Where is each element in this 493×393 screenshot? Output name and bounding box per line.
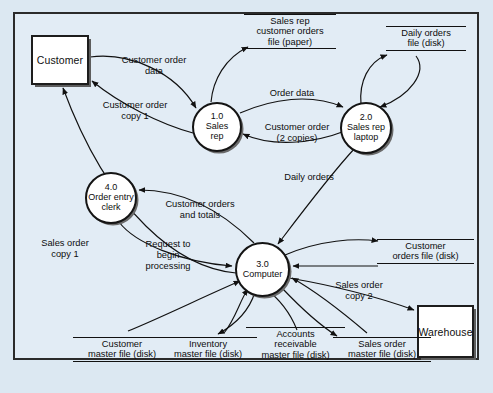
flow-label-customer-order-copy1-line2: copy 1 bbox=[91, 111, 179, 122]
external-entity-customer-label: Customer bbox=[37, 54, 83, 66]
process-4-line2: clerk bbox=[101, 203, 120, 213]
flow-label-sales-order-copy2: Sales order copy 2 bbox=[324, 280, 394, 302]
flow-label-customer-order-copy1: Customer order copy 1 bbox=[91, 100, 179, 122]
flow-label-sales-order-copy1-line2: copy 1 bbox=[30, 249, 100, 260]
flow-label-customer-order-2copies-line2: (2 copies) bbox=[253, 133, 341, 144]
data-store-customer-master-file-line2: master file (disk) bbox=[73, 349, 171, 359]
data-store-customer-orders-file-line1: Customer bbox=[377, 241, 474, 251]
data-store-daily-orders-line1: Daily orders bbox=[386, 28, 466, 38]
flow-label-sales-order-copy2-line1: Sales order bbox=[324, 280, 394, 291]
process-4-order-entry-clerk[interactable]: 4.0 Order entry clerk bbox=[85, 172, 137, 224]
data-store-customer-master-file-line1: Customer bbox=[73, 339, 171, 349]
data-store-inventory-master-file[interactable]: Inventory master file (disk) bbox=[159, 337, 257, 362]
data-store-ar-master-file-line2: receivable bbox=[246, 339, 345, 349]
data-store-accounts-receivable-master-file[interactable]: Accounts receivable master file (disk) bbox=[246, 327, 345, 362]
data-store-customer-orders-file[interactable]: Customer orders file (disk) bbox=[377, 239, 474, 264]
flow-label-request-to-begin-processing: Request to begin processing bbox=[133, 239, 203, 272]
data-store-ar-master-file-line3: master file (disk) bbox=[246, 350, 345, 360]
data-store-sales-rep-paper-line3: file (paper) bbox=[244, 37, 336, 47]
external-entity-customer[interactable]: Customer bbox=[31, 35, 89, 85]
flow-label-customer-orders-and-totals: Customer orders and totals bbox=[152, 199, 248, 221]
flow-label-customer-order-data: Customer order data bbox=[110, 55, 198, 77]
flow-label-sales-order-copy1: Sales order copy 1 bbox=[30, 238, 100, 260]
flow-to-customer-orders-file bbox=[285, 240, 378, 255]
flow-label-customer-order-copy1-line1: Customer order bbox=[91, 100, 179, 111]
process-2-sales-rep-laptop[interactable]: 2.0 Sales rep laptop bbox=[340, 102, 392, 154]
flow-label-order-data-line1: Order data bbox=[261, 88, 323, 99]
data-store-daily-orders[interactable]: Daily orders file (disk) bbox=[386, 26, 466, 51]
external-entity-warehouse-label: Warehouse bbox=[418, 326, 472, 338]
flow-label-request-line1: Request to bbox=[133, 239, 203, 250]
dfd-figure: the DFD portrays the logical activities … bbox=[0, 0, 493, 393]
data-store-sales-order-master-file-line1: Sales order bbox=[333, 339, 431, 349]
flow-label-daily-orders: Daily orders bbox=[276, 172, 342, 183]
data-store-daily-orders-line2: file (disk) bbox=[386, 38, 466, 48]
flow-label-request-line2: begin bbox=[133, 250, 203, 261]
data-store-customer-orders-file-line2: orders file (disk) bbox=[377, 251, 474, 261]
flow-to-daily-orders-file bbox=[361, 55, 387, 104]
flow-label-sales-order-copy1-line1: Sales order bbox=[30, 238, 100, 249]
data-store-inventory-master-file-line1: Inventory bbox=[159, 339, 257, 349]
flow-label-request-line3: processing bbox=[133, 261, 203, 272]
data-store-ar-master-file-line1: Accounts bbox=[246, 329, 345, 339]
flow-from-ar-master-file bbox=[268, 291, 297, 330]
flow-from-inventory-master-file bbox=[224, 289, 248, 333]
flow-to-salesrep-paper-file bbox=[211, 47, 248, 102]
process-3-computer[interactable]: 3.0 Computer bbox=[235, 242, 290, 297]
flow-label-customer-orders-and-totals-line2: and totals bbox=[152, 210, 248, 221]
flow-label-order-data: Order data bbox=[261, 88, 323, 99]
data-store-customer-master-file[interactable]: Customer master file (disk) bbox=[73, 337, 171, 362]
data-store-sales-rep-paper-line2: customer orders bbox=[244, 26, 336, 36]
process-1-sales-rep[interactable]: 1.0 Sales rep bbox=[192, 102, 242, 152]
flow-label-daily-orders-line1: Daily orders bbox=[276, 172, 342, 183]
flow-label-customer-order-data-line2: data bbox=[110, 66, 198, 77]
data-store-inventory-master-file-line2: master file (disk) bbox=[159, 349, 257, 359]
flow-daily-orders bbox=[278, 148, 355, 244]
data-store-sales-order-master-file[interactable]: Sales order master file (disk) bbox=[333, 337, 431, 362]
flow-label-customer-order-2copies-line1: Customer order bbox=[253, 122, 341, 133]
flow-order-data bbox=[240, 99, 343, 113]
process-1-line2: rep bbox=[210, 132, 223, 142]
process-3-line1: Computer bbox=[243, 270, 283, 280]
data-store-sales-rep-paper[interactable]: Sales rep customer orders file (paper) bbox=[244, 14, 336, 49]
data-store-sales-order-master-file-line2: master file (disk) bbox=[333, 349, 431, 359]
flow-label-sales-order-copy2-line2: copy 2 bbox=[324, 291, 394, 302]
data-store-sales-rep-paper-line1: Sales rep bbox=[244, 16, 336, 26]
flow-label-customer-orders-and-totals-line1: Customer orders bbox=[152, 199, 248, 210]
flow-from-customer-master-file bbox=[128, 281, 240, 331]
flow-from-daily-orders-file bbox=[380, 56, 420, 107]
flow-label-customer-order-data-line1: Customer order bbox=[110, 55, 198, 66]
flow-label-customer-order-2copies: Customer order (2 copies) bbox=[253, 122, 341, 144]
process-2-line2: laptop bbox=[354, 133, 379, 143]
